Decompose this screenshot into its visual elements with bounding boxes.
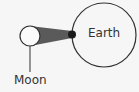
moon-circle xyxy=(20,26,40,46)
moon-label: Moon xyxy=(14,73,47,87)
earth-dot xyxy=(68,31,76,39)
earth-label: Earth xyxy=(88,26,120,40)
